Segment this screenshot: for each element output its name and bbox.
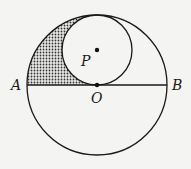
label-a: A [9,77,21,93]
label-p: P [80,53,91,69]
label-b: B [171,77,182,93]
point-o-dot [95,83,99,87]
point-p-dot [95,48,99,52]
geometry-diagram: A B O P [0,0,191,169]
label-o: O [91,90,103,106]
